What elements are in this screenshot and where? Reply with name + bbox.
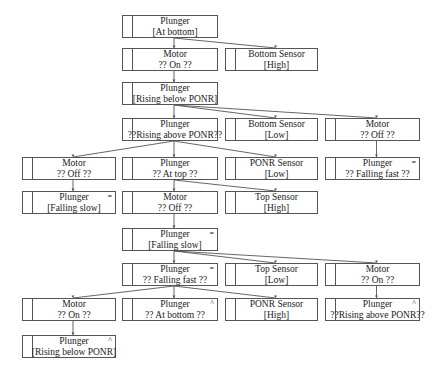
equals-marker-icon: = [411,158,416,167]
node-state: [Falling slow] [148,240,202,251]
node-side-bar [123,299,133,320]
node-title: Plunger [160,264,190,275]
node-title: Motor [163,192,187,203]
node-title: Motor [366,264,390,275]
node-text: Top Sensor[Low] [236,264,317,285]
node-text: Plunger[Falling slow] [33,192,115,213]
connector-line [73,141,174,157]
state-node: Motor?? On ?? [122,48,218,71]
state-node: Bottom Sensor[Low] [225,118,318,141]
connector-line [174,105,377,118]
node-text: PONR Sensor[High] [236,299,317,320]
node-side-bar [226,49,236,70]
node-text: Motor?? On ?? [336,264,419,285]
node-side-bar [226,264,236,285]
node-state: ?? Off ?? [158,203,193,214]
node-title: PONR Sensor [250,299,304,310]
node-title: Plunger [59,192,89,203]
node-side-bar [123,192,133,213]
node-title: Plunger [160,16,190,27]
state-node: Motor?? On ?? [325,263,420,286]
node-state: [At bottom] [152,27,197,38]
state-node: Plunger[Rising below PONR] [122,82,218,105]
node-side-bar [23,299,33,320]
node-side-bar [226,158,236,179]
node-title: Motor [366,119,390,130]
state-node: Plunger?? At bottom ??^ [122,298,218,321]
node-text: Motor?? Off ?? [336,119,419,140]
state-node: Plunger[At bottom] [122,15,218,38]
node-title: Top Sensor [255,192,298,203]
state-node: Plunger??Rising above PONR??^ [325,298,420,321]
node-text: Motor?? On ?? [33,299,115,320]
caret-up-marker-icon: ^ [412,299,416,308]
state-node: Plunger?? Falling fast ??= [325,157,420,180]
node-side-bar [226,299,236,320]
connector-line [174,38,276,48]
node-title: Plunger [363,299,393,310]
node-text: Plunger[Falling slow] [133,229,217,250]
node-title: Plunger [160,229,190,240]
node-title: Plunger [363,158,393,169]
node-title: Motor [62,299,86,310]
node-side-bar [123,229,133,250]
caret-up-marker-icon: ^ [210,299,214,308]
state-node: Plunger[Falling slow]= [122,228,218,251]
state-node: Bottom Sensor[High] [225,48,318,71]
state-node: Motor?? On ?? [22,298,116,321]
node-title: Plunger [160,158,190,169]
node-side-bar [23,158,33,179]
node-text: Plunger?? At top ?? [133,158,217,179]
state-node: Motor?? Off ?? [122,191,218,214]
caret-up-marker-icon: ^ [108,336,112,345]
node-state: [High] [264,203,289,214]
state-node: PONR Sensor[Low] [225,157,318,180]
node-text: Plunger?? Falling fast ?? [133,264,217,285]
node-state: ?? Falling fast ?? [345,169,410,180]
connector-line [174,180,276,191]
node-text: Plunger[Rising below PONR] [33,336,115,357]
node-side-bar [123,158,133,179]
node-title: Motor [62,158,86,169]
node-side-bar [326,119,336,140]
node-title: Bottom Sensor [248,119,305,130]
node-state: [Low] [265,275,289,286]
node-text: Plunger?? Falling fast ?? [336,158,419,179]
node-title: Plunger [160,119,190,130]
node-state: ?? At top ?? [152,169,197,180]
node-text: Plunger??Rising above PONR?? [133,119,217,140]
node-side-bar [23,192,33,213]
state-node: Plunger[Falling slow]= [22,191,116,214]
node-state: ??Rising above PONR?? [330,310,424,321]
state-node: Motor?? Off ?? [22,157,116,180]
state-node: Plunger?? Falling fast ??= [122,263,218,286]
equals-marker-icon: = [209,264,214,273]
node-title: Top Sensor [255,264,298,275]
node-title: Plunger [160,83,190,94]
state-node: Plunger??Rising above PONR?? [122,118,218,141]
node-state: [Rising below PONR] [133,94,217,105]
node-state: [Low] [265,130,289,141]
node-text: Plunger[At bottom] [133,16,217,37]
node-state: [Low] [265,169,289,180]
node-text: Plunger[Rising below PONR] [133,83,217,104]
node-side-bar [326,158,336,179]
node-side-bar [123,264,133,285]
state-node: Plunger?? At top ?? [122,157,218,180]
equals-marker-icon: = [107,192,112,201]
node-text: Motor?? On ?? [133,49,217,70]
node-state: ?? Off ?? [360,130,395,141]
node-text: Plunger??Rising above PONR?? [336,299,419,320]
node-state: [Rising below PONR] [32,347,116,358]
node-state: ?? Off ?? [57,169,92,180]
node-state: ?? Falling fast ?? [143,275,208,286]
node-text: Bottom Sensor[High] [236,49,317,70]
node-side-bar [326,264,336,285]
state-node: Plunger[Rising below PONR]^ [22,335,116,358]
node-title: Plunger [59,336,89,347]
state-node: Motor?? Off ?? [325,118,420,141]
node-state: [High] [264,60,289,71]
node-title: Bottom Sensor [248,49,305,60]
node-title: Motor [163,49,187,60]
equals-marker-icon: = [209,229,214,238]
